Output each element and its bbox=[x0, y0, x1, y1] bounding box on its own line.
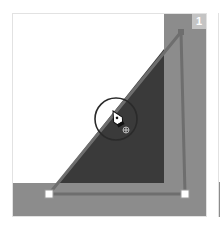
next-panel-gray-band bbox=[219, 182, 220, 217]
illustration-panel: 1 bbox=[12, 13, 207, 217]
add-anchor-plus-icon bbox=[123, 127, 129, 133]
anchor-point-bottom-left[interactable] bbox=[45, 190, 53, 198]
anchor-point-top[interactable] bbox=[178, 29, 184, 35]
horizontal-gray-band bbox=[13, 183, 207, 217]
anchor-point-bottom-right[interactable] bbox=[181, 190, 189, 198]
artboard bbox=[13, 14, 207, 217]
next-illustration-panel-edge bbox=[218, 13, 220, 217]
step-number-badge: 1 bbox=[192, 14, 206, 29]
